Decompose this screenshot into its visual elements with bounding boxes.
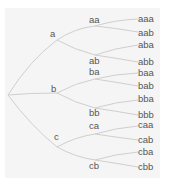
- node-label-ca: ca: [89, 121, 99, 131]
- node-label-abb: abb: [138, 57, 154, 67]
- node-label-c: c: [54, 132, 59, 142]
- node-label-cab: cab: [138, 135, 153, 145]
- node-label-aa: aa: [89, 15, 100, 25]
- edge-c-cb: [57, 147, 95, 160]
- node-label-aab: aab: [138, 28, 154, 38]
- edge-aa-aab: [95, 26, 138, 32]
- node-label-cbb: cbb: [138, 162, 153, 172]
- edge-ba-baa: [95, 73, 138, 79]
- node-label-aaa: aaa: [138, 14, 154, 24]
- node-label-bab: bab: [138, 81, 154, 91]
- edge-a-aa: [57, 26, 95, 40]
- edge-root-b: [8, 93, 57, 95]
- edge-ca-caa: [95, 126, 138, 134]
- edge-ab-abb: [95, 55, 138, 62]
- edge-ba-bab: [95, 79, 138, 86]
- node-label-baa: baa: [138, 68, 154, 78]
- edge-root-a: [8, 40, 57, 95]
- node-label-cba: cba: [138, 147, 153, 157]
- node-label-cb: cb: [89, 161, 99, 171]
- edge-root-c: [8, 95, 57, 147]
- edge-bb-bba: [95, 100, 138, 108]
- node-label-bb: bb: [89, 108, 100, 118]
- node-label-ba: ba: [89, 67, 100, 77]
- edge-ab-aba: [95, 45, 138, 55]
- node-label-bba: bba: [138, 94, 154, 104]
- edge-cb-cba: [95, 152, 138, 160]
- node-label-a: a: [50, 29, 55, 39]
- edge-a-ab: [57, 40, 95, 55]
- node-label-caa: caa: [138, 120, 153, 130]
- edge-c-ca: [57, 134, 95, 147]
- edge-cb-cbb: [95, 160, 138, 167]
- edge-ca-cab: [95, 134, 138, 140]
- edge-aa-aaa: [95, 19, 138, 26]
- node-label-b: b: [51, 84, 56, 94]
- node-label-ab: ab: [89, 56, 100, 66]
- node-label-aba: aba: [138, 40, 154, 50]
- edge-bb-bbb: [95, 108, 138, 115]
- edge-b-bb: [57, 93, 95, 108]
- edge-b-ba: [57, 79, 95, 93]
